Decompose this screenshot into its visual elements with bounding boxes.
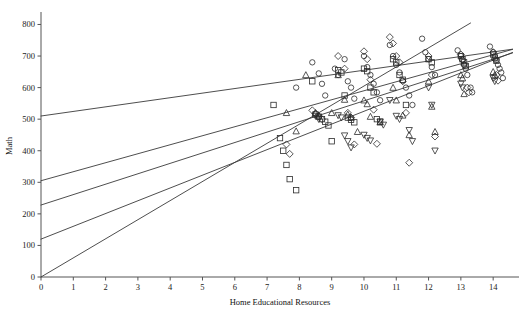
data-point-square: [281, 148, 286, 153]
data-point-diamond: [406, 159, 413, 166]
x-tick-label: 0: [39, 282, 43, 292]
regression-line-line-2: [41, 49, 513, 180]
y-tick-label: 200: [22, 209, 35, 219]
regression-line-line-5-steepest: [41, 23, 471, 277]
data-point-triangle-up: [364, 101, 370, 107]
x-tick-label: 14: [489, 282, 498, 292]
data-point-diamond: [386, 34, 393, 41]
x-tick-label: 13: [457, 282, 466, 292]
data-point-circle: [365, 64, 370, 69]
scatter-plot-chart: 0123456789101112131401002003004005006007…: [0, 0, 529, 320]
data-point-square: [287, 176, 292, 181]
data-point-square: [310, 79, 315, 84]
y-tick-label: 400: [22, 146, 35, 156]
data-point-circle: [310, 60, 315, 65]
data-point-circle: [410, 102, 415, 107]
x-axis-title: Home Educational Resources: [230, 297, 331, 307]
data-point-square: [293, 187, 298, 192]
data-point-triangle-down: [348, 145, 354, 151]
data-point-triangle-up: [390, 84, 396, 90]
y-tick-label: 100: [22, 240, 35, 250]
x-tick-label: 4: [168, 282, 173, 292]
y-tick-label: 700: [22, 51, 35, 61]
data-point-circle: [487, 44, 492, 49]
plot-canvas: 0123456789101112131401002003004005006007…: [0, 0, 529, 320]
data-point-circle: [348, 85, 353, 90]
data-point-diamond: [335, 53, 342, 60]
data-point-circle: [374, 90, 379, 95]
data-point-circle: [465, 72, 470, 77]
data-point-triangle-up: [293, 128, 299, 134]
regression-line-line-3: [41, 53, 513, 205]
x-tick-label: 3: [136, 282, 140, 292]
data-point-diamond: [364, 56, 371, 63]
data-point-circle: [419, 36, 424, 41]
x-tick-label: 12: [424, 282, 433, 292]
regression-line-line-4: [41, 52, 513, 239]
y-axis-title: Math: [4, 136, 14, 155]
data-point-circle: [332, 66, 337, 71]
data-point-circle: [361, 53, 366, 58]
data-point-triangle-down: [345, 139, 351, 145]
x-tick-label: 1: [71, 282, 75, 292]
data-point-square: [329, 139, 334, 144]
regression-line-line-1-flattest: [41, 49, 513, 116]
data-point-triangle-up: [406, 132, 412, 138]
data-point-square: [271, 102, 276, 107]
data-point-triangle-up: [367, 113, 373, 119]
data-point-diamond: [341, 65, 348, 72]
y-tick-label: 800: [22, 19, 35, 29]
data-point-triangle-down: [432, 148, 438, 154]
data-point-diamond: [360, 48, 367, 55]
data-point-square: [284, 162, 289, 167]
x-tick-label: 9: [330, 282, 334, 292]
data-point-circle: [377, 98, 382, 103]
data-point-circle: [345, 79, 350, 84]
data-point-circle: [316, 71, 321, 76]
data-point-triangle-up: [303, 72, 309, 78]
data-point-diamond: [351, 141, 358, 148]
data-point-triangle-down: [458, 81, 464, 87]
data-point-square: [277, 135, 282, 140]
data-point-circle: [352, 96, 357, 101]
data-point-diamond: [286, 150, 293, 157]
data-point-diamond: [432, 133, 439, 140]
x-tick-label: 8: [297, 282, 301, 292]
x-tick-label: 11: [392, 282, 400, 292]
y-tick-label: 300: [22, 177, 35, 187]
data-point-circle: [342, 56, 347, 61]
data-point-triangle-down: [409, 139, 415, 145]
data-point-circle: [319, 81, 324, 86]
data-point-diamond: [373, 140, 380, 147]
data-point-circle: [293, 85, 298, 90]
y-tick-label: 0: [31, 272, 35, 282]
x-tick-label: 2: [103, 282, 107, 292]
x-tick-label: 10: [360, 282, 369, 292]
data-point-circle: [368, 72, 373, 77]
data-point-diamond: [390, 40, 397, 47]
data-point-circle: [323, 93, 328, 98]
data-point-square: [403, 102, 408, 107]
x-tick-label: 6: [233, 282, 237, 292]
data-point-square: [390, 56, 395, 61]
x-tick-label: 5: [200, 282, 204, 292]
y-tick-label: 500: [22, 114, 35, 124]
data-point-triangle-down: [406, 128, 412, 134]
data-point-triangle-down: [341, 133, 347, 139]
data-point-triangle-up: [354, 128, 360, 134]
x-tick-label: 7: [265, 282, 269, 292]
y-tick-label: 600: [22, 83, 35, 93]
